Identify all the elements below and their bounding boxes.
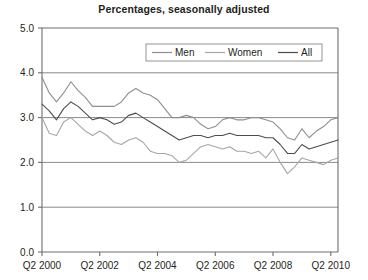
chart-container: Percentages, seasonally adjusted 0.01.02… bbox=[0, 0, 368, 280]
chart-legend: MenWomenAll bbox=[146, 44, 322, 61]
y-tick-label: 3.0 bbox=[20, 112, 34, 123]
y-tick-label: 5.0 bbox=[20, 23, 34, 34]
y-tick-label: 1.0 bbox=[20, 202, 34, 213]
series-lines bbox=[42, 77, 338, 173]
x-tick-label: Q2 2010 bbox=[312, 260, 351, 271]
x-axis-labels: Q2 2000Q2 2002Q2 2004Q2 2006Q2 2008Q2 20… bbox=[23, 260, 351, 271]
x-tick-label: Q2 2006 bbox=[196, 260, 235, 271]
series-line-women bbox=[42, 118, 338, 174]
y-axis-ticks bbox=[38, 28, 42, 252]
x-tick-label: Q2 2008 bbox=[254, 260, 293, 271]
x-axis-ticks bbox=[42, 252, 331, 256]
x-tick-label: Q2 2002 bbox=[81, 260, 120, 271]
y-tick-label: 2.0 bbox=[20, 157, 34, 168]
y-tick-label: 4.0 bbox=[20, 67, 34, 78]
y-tick-label: 0.0 bbox=[20, 247, 34, 258]
x-tick-label: Q2 2004 bbox=[138, 260, 177, 271]
legend-label-men: Men bbox=[175, 47, 194, 58]
legend-label-women: Women bbox=[228, 47, 262, 58]
series-line-all bbox=[42, 102, 338, 154]
chart-plot: 0.01.02.03.04.05.0 Q2 2000Q2 2002Q2 2004… bbox=[0, 0, 368, 280]
x-tick-label: Q2 2000 bbox=[23, 260, 62, 271]
legend-label-all: All bbox=[301, 47, 312, 58]
y-axis-labels: 0.01.02.03.04.05.0 bbox=[20, 23, 34, 258]
series-line-men bbox=[42, 77, 338, 140]
